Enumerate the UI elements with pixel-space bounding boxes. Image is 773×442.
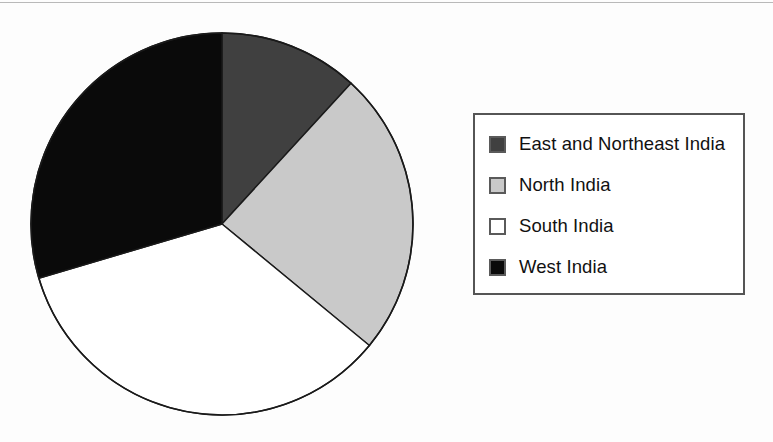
legend-box: East and Northeast IndiaNorth IndiaSouth…	[473, 113, 745, 295]
legend-item-label: North India	[519, 176, 611, 195]
swatch-west-india	[489, 259, 506, 276]
swatch-north-india	[489, 177, 506, 194]
legend-item-label: West India	[519, 258, 607, 277]
legend-list: East and Northeast IndiaNorth IndiaSouth…	[475, 115, 743, 293]
swatch-east-and-northeast-india	[489, 136, 506, 153]
legend-item[interactable]: North India	[489, 165, 743, 206]
legend-item[interactable]: South India	[489, 206, 743, 247]
pie-chart-figure: East and Northeast IndiaNorth IndiaSouth…	[0, 0, 773, 442]
legend-item-label: East and Northeast India	[519, 135, 725, 154]
legend-item-label: South India	[519, 217, 614, 236]
pie-slice-group	[31, 33, 413, 415]
legend-item[interactable]: West India	[489, 247, 743, 288]
swatch-south-india	[489, 218, 506, 235]
legend-item[interactable]: East and Northeast India	[489, 124, 743, 165]
